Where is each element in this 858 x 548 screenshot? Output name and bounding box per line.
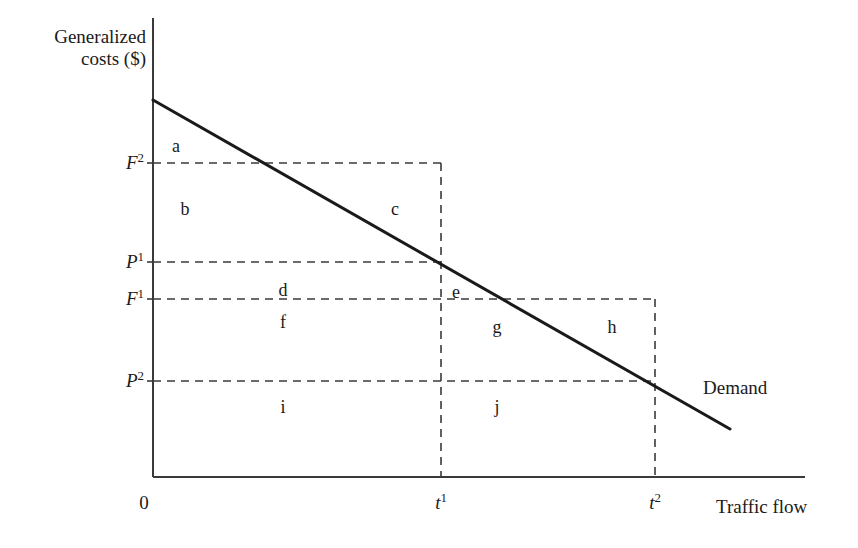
y-tick-label-p2: P2 bbox=[104, 370, 144, 392]
x-tick-sup-t1: 1 bbox=[440, 490, 446, 505]
y-tick-sup-p1: 1 bbox=[138, 249, 144, 264]
region-label-j: j bbox=[484, 397, 510, 418]
region-label-f: f bbox=[270, 312, 296, 333]
region-label-c: c bbox=[382, 199, 408, 220]
y-tick-base-p1: P bbox=[126, 251, 138, 272]
y-tick-sup-f2: 2 bbox=[138, 150, 144, 165]
region-label-b: b bbox=[172, 199, 198, 220]
figure-canvas bbox=[0, 0, 858, 548]
x-tick-label-t2: t2 bbox=[635, 492, 675, 514]
x-axis-title: Traffic flow bbox=[716, 496, 807, 518]
y-tick-base-f1: F bbox=[126, 288, 138, 309]
y-axis-title: Generalized costs ($) bbox=[14, 26, 146, 71]
y-tick-base-f2: F bbox=[126, 152, 138, 173]
y-tick-label-f2: F2 bbox=[104, 152, 144, 174]
x-tick-sup-t2: 2 bbox=[654, 490, 660, 505]
x-tick-label-origin: 0 bbox=[131, 492, 157, 514]
demand-series-label: Demand bbox=[703, 377, 767, 399]
y-tick-sup-f1: 1 bbox=[138, 286, 144, 301]
y-axis-title-line-1: Generalized bbox=[54, 26, 146, 47]
region-label-g: g bbox=[484, 317, 510, 338]
y-tick-sup-p2: 2 bbox=[138, 368, 144, 383]
region-label-e: e bbox=[443, 282, 469, 303]
y-tick-base-p2: P bbox=[126, 370, 138, 391]
region-label-i: i bbox=[270, 397, 296, 418]
x-tick-label-t1: t1 bbox=[421, 492, 461, 514]
region-label-h: h bbox=[599, 317, 625, 338]
y-tick-label-p1: P1 bbox=[104, 251, 144, 273]
demand-curve-figure: Generalized costs ($) Traffic flow Deman… bbox=[0, 0, 858, 548]
y-axis-title-line-2: costs ($) bbox=[14, 48, 146, 70]
region-label-a: a bbox=[163, 136, 189, 157]
y-tick-label-f1: F1 bbox=[104, 288, 144, 310]
region-label-d: d bbox=[270, 280, 296, 301]
